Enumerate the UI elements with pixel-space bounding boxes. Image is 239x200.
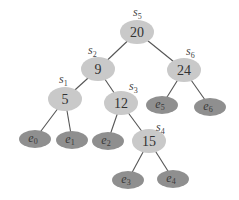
node-key: 9 — [95, 62, 102, 77]
node-name-label: s1 — [59, 72, 68, 88]
internal-node-20: 20s5 — [120, 5, 154, 44]
leaf-node-e5: e5 — [146, 96, 178, 114]
leaf-node-e2: e2 — [92, 132, 124, 150]
leaf-node-e0: e0 — [19, 130, 51, 148]
tree-nodes: 20s59s224s65s112s315s4e0e1e2e3e4e5e6 — [19, 5, 226, 189]
node-key: 15 — [142, 134, 156, 149]
node-key: 20 — [130, 25, 144, 40]
leaf-node-e4: e4 — [157, 170, 189, 188]
internal-node-12: 12s3 — [104, 79, 138, 115]
leaf-node-e1: e1 — [56, 131, 88, 149]
node-name-label: s4 — [156, 120, 165, 136]
leaf-node-e3: e3 — [112, 171, 144, 189]
internal-node-5: 5s1 — [48, 72, 82, 111]
node-key: 5 — [62, 92, 69, 107]
binary-search-tree-diagram: 20s59s224s65s112s315s4e0e1e2e3e4e5e6 — [0, 0, 239, 200]
internal-node-24: 24s6 — [167, 44, 201, 82]
node-name-label: s2 — [88, 43, 97, 59]
internal-node-9: 9s2 — [81, 43, 115, 81]
leaf-node-e6: e6 — [194, 98, 226, 116]
node-key: 24 — [177, 63, 191, 78]
node-name-label: s6 — [186, 44, 195, 60]
node-name-label: s5 — [133, 5, 142, 21]
node-name-label: s3 — [129, 79, 138, 95]
node-key: 12 — [114, 96, 128, 111]
